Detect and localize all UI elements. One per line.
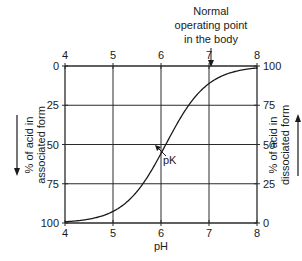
right-axis-title: % of acid in dissociated form	[267, 105, 291, 185]
right-axis-title-line1: % of acid in	[267, 117, 279, 174]
y-tick-label-left: 75	[47, 178, 59, 190]
x-tick-label-top: 8	[254, 49, 260, 61]
x-tick-label-bottom: 7	[206, 227, 212, 239]
y-tick-label-right: 75	[263, 99, 275, 111]
normal-op-line2: operating point	[175, 19, 248, 31]
left-axis-title: % of acid in associated form	[23, 106, 47, 184]
y-tick-label-left: 0	[53, 60, 59, 72]
normal-op-line1: Normal	[193, 5, 228, 17]
x-tick-label-top: 5	[110, 49, 116, 61]
left-axis-title-line1: % of acid in	[23, 117, 35, 174]
x-tick-label-bottom: 6	[158, 227, 164, 239]
ph-dissociation-chart: 445566778801002575505075251000 pK Normal…	[0, 0, 302, 261]
x-tick-label-bottom: 4	[62, 227, 68, 239]
y-tick-label-left: 50	[47, 139, 59, 151]
normal-op-line3: in the body	[184, 33, 238, 45]
right-axis-title-line2: dissociated form	[279, 105, 291, 185]
x-tick-label-bottom: 8	[254, 227, 260, 239]
y-tick-label-right: 100	[263, 60, 281, 72]
grid-lines	[65, 66, 257, 223]
y-tick-label-left: 100	[41, 217, 59, 229]
y-tick-label-right: 0	[263, 217, 269, 229]
down-arrow-icon	[14, 168, 20, 176]
up-arrow-icon	[295, 114, 301, 122]
pk-label: pK	[163, 154, 177, 166]
y-tick-label-left: 25	[47, 99, 59, 111]
x-axis-title: pH	[154, 240, 168, 252]
x-tick-label-top: 4	[62, 49, 68, 61]
left-axis-title-line2: associated form	[35, 106, 47, 184]
x-tick-label-bottom: 5	[110, 227, 116, 239]
y-tick-label-right: 25	[263, 178, 275, 190]
x-tick-label-top: 6	[158, 49, 164, 61]
